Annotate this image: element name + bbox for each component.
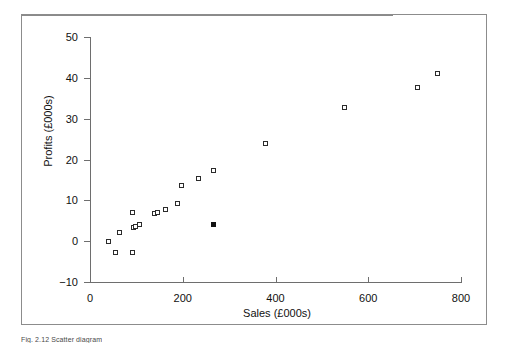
x-axis-tick bbox=[276, 277, 277, 283]
x-axis-tick bbox=[368, 277, 369, 283]
scatter-plot-chart: −1001020304050 0200400600800 Profits (£0… bbox=[22, 15, 488, 326]
y-axis-tick-label: 50 bbox=[38, 32, 78, 43]
figure-frame: −1001020304050 0200400600800 Profits (£0… bbox=[21, 14, 487, 325]
x-axis-tick-label: 800 bbox=[441, 293, 481, 304]
figure-caption: Fig. 2.12 Scatter diagram bbox=[21, 336, 102, 343]
data-point-highlighted bbox=[211, 222, 216, 227]
data-point bbox=[211, 168, 216, 173]
x-axis-tick-label: 0 bbox=[70, 293, 110, 304]
y-axis-tick bbox=[84, 241, 90, 242]
data-point bbox=[435, 71, 440, 76]
data-point bbox=[196, 176, 201, 181]
y-axis-tick-label: 0 bbox=[38, 236, 78, 247]
y-axis-tick bbox=[84, 160, 90, 161]
data-point bbox=[113, 250, 118, 255]
y-axis-tick bbox=[84, 119, 90, 120]
x-axis-tick-label: 400 bbox=[256, 293, 296, 304]
y-axis-tick bbox=[84, 200, 90, 201]
x-axis-tick bbox=[461, 277, 462, 283]
data-point bbox=[179, 183, 184, 188]
data-point bbox=[117, 230, 122, 235]
x-axis-tick-label: 600 bbox=[348, 293, 388, 304]
y-axis-tick bbox=[84, 78, 90, 79]
data-point bbox=[163, 207, 168, 212]
data-point bbox=[415, 85, 420, 90]
data-point bbox=[137, 222, 142, 227]
x-axis-title: Sales (£000s) bbox=[162, 307, 392, 319]
y-axis-line bbox=[90, 37, 91, 283]
data-point bbox=[130, 210, 135, 215]
x-axis-tick bbox=[90, 277, 91, 283]
x-axis-tick-label: 200 bbox=[163, 293, 203, 304]
y-axis-tick-label: −10 bbox=[38, 277, 78, 288]
zero-reference-line bbox=[22, 15, 393, 16]
data-point bbox=[342, 105, 347, 110]
data-point bbox=[106, 239, 111, 244]
data-point bbox=[263, 141, 268, 146]
y-axis-tick bbox=[84, 37, 90, 38]
data-point bbox=[130, 250, 135, 255]
x-axis-tick bbox=[183, 277, 184, 283]
data-point bbox=[175, 201, 180, 206]
y-axis-title: Profits (£000s) bbox=[42, 61, 54, 201]
data-point bbox=[155, 210, 160, 215]
